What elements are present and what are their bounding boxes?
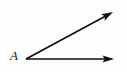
diagonal-ray-line: [26, 16, 106, 59]
diagonal-ray-arrowhead-icon: [101, 12, 113, 21]
horizontal-ray: [26, 55, 114, 62]
diagonal-ray: [26, 12, 113, 59]
angle-diagram: A: [0, 0, 127, 72]
angle-diagram-canvas: A: [0, 0, 127, 72]
vertex-label-a: A: [9, 48, 18, 63]
